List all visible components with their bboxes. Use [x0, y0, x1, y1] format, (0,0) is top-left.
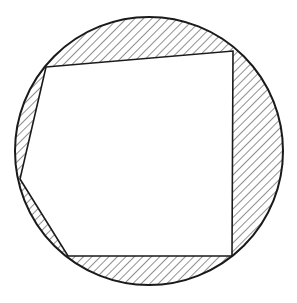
inscribed-pentagon — [20, 51, 233, 256]
inscribed-polygon-diagram — [0, 0, 297, 303]
diagram-canvas — [0, 0, 297, 303]
